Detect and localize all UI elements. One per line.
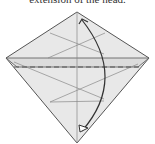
front-flap: [6, 58, 149, 67]
origami-diagram: [0, 0, 155, 144]
paper-diamond: [6, 12, 149, 143]
